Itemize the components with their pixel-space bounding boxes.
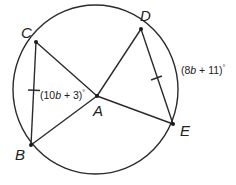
tick-mark-CB [28,90,40,91]
angle-label-CAB: (10b + 3)° [40,89,85,101]
label-E: E [180,122,191,139]
point-D [139,27,143,31]
chord-DE [141,29,173,124]
radius-AD [97,29,141,96]
arc-label-DE: (8b + 11)° [181,64,226,76]
circle-diagram: A B C D E (10b + 3)° (8b + 11)° [0,0,236,185]
circle [13,5,178,174]
point-C [34,40,38,44]
point-A [95,94,99,98]
label-B: B [15,146,25,163]
label-C: C [21,24,32,41]
point-B [29,143,33,147]
radius-AE [97,96,173,124]
radius-AB [31,96,97,145]
chord-CB [31,42,36,145]
radius-AC [36,42,97,96]
label-A: A [92,102,103,119]
point-E [171,122,175,126]
label-D: D [140,7,151,24]
